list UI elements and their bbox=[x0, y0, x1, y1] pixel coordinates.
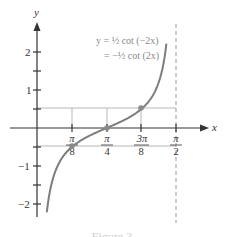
x-tick-label-3pi-8: 3π 8 bbox=[134, 133, 149, 157]
figure-caption: Figure 3 bbox=[92, 230, 132, 237]
x-tick-label-pi-4: π 4 bbox=[101, 133, 113, 157]
x-axis-arrow-icon bbox=[200, 125, 209, 132]
point-pi-4 bbox=[104, 125, 110, 131]
svg-text:π: π bbox=[104, 133, 110, 144]
x-axis-label: x bbox=[211, 121, 217, 133]
svg-text:π: π bbox=[173, 133, 179, 144]
y-tick-label-neg-1: −1 bbox=[18, 160, 30, 172]
x-tick-label-pi-2: π 2 bbox=[170, 133, 182, 157]
cotangent-graph: y x 2 1 −1 −2 π 8 π 4 3π 8 π 2 y = ½ cot… bbox=[0, 0, 227, 237]
point-pi-8 bbox=[69, 143, 75, 149]
svg-text:3π: 3π bbox=[136, 133, 148, 144]
svg-text:4: 4 bbox=[104, 146, 110, 157]
y-axis-arrow-icon bbox=[34, 22, 41, 31]
y-tick-label-2: 2 bbox=[25, 46, 31, 58]
point-3pi-8 bbox=[138, 105, 144, 111]
svg-text:8: 8 bbox=[138, 146, 143, 157]
equation-line-1: y = ½ cot (−2x) bbox=[96, 35, 159, 47]
svg-text:π: π bbox=[69, 133, 75, 144]
y-tick-label-neg-2: −2 bbox=[18, 198, 30, 210]
y-axis-label: y bbox=[33, 6, 39, 18]
y-tick-label-1: 1 bbox=[26, 84, 32, 96]
equation-line-2: = −½ cot (2x) bbox=[104, 50, 159, 62]
svg-text:2: 2 bbox=[173, 146, 178, 157]
